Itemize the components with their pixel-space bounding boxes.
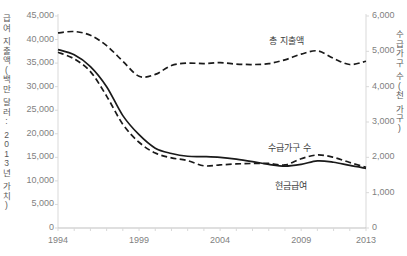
plot-area [0,0,407,256]
chart-container: 급여 지출액(백만 달러: 2013년 가치) 수급가구 수(천 가구) 05,… [0,0,407,256]
series-label-3: 현금급여 [275,179,307,192]
series-line-1 [58,31,366,77]
series-label-2: 수급가구 수 [268,141,311,154]
series-label-1: 총 지출액 [269,34,304,47]
series-line-2 [58,50,366,169]
series-line-3 [58,52,366,167]
